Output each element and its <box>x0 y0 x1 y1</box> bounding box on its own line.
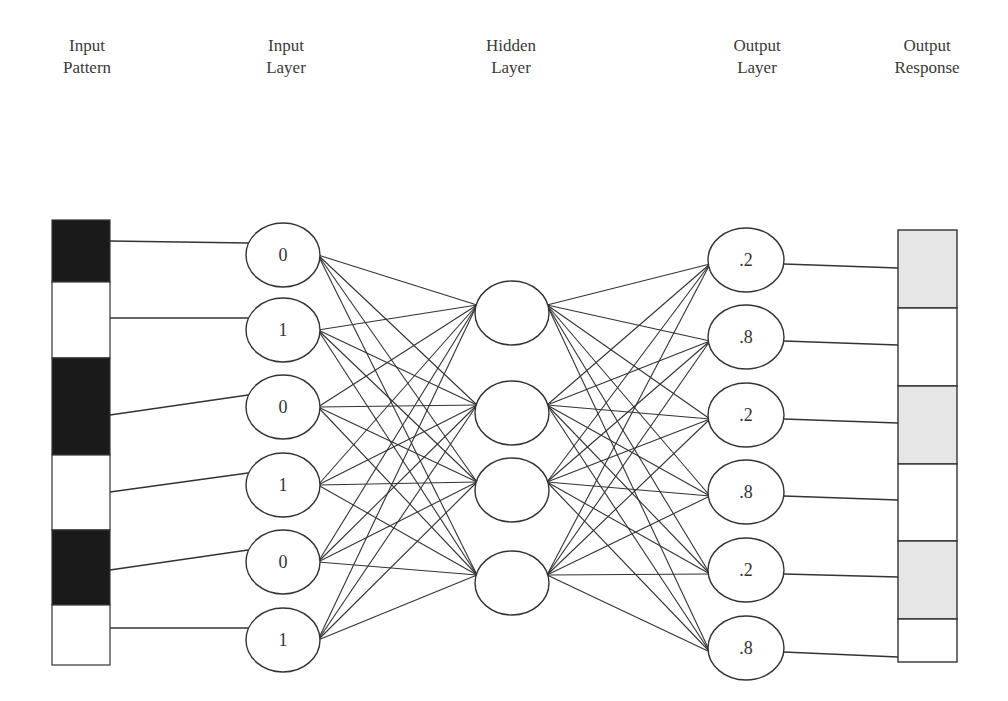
input-pattern-cell-dark <box>52 530 110 605</box>
neuron-value: 1 <box>279 630 288 650</box>
pattern-to-input-line <box>110 550 248 570</box>
hidden-output-connection <box>547 305 710 652</box>
input-layer-node: 1 <box>246 453 320 517</box>
input-hidden-connection <box>318 305 477 485</box>
neuron-value: 1 <box>279 475 288 495</box>
input-hidden-connection <box>318 255 477 482</box>
input-pattern-cell-dark <box>52 358 110 455</box>
neuron-circle <box>475 551 549 615</box>
nodes: 010101.2.8.2.8.2.8 <box>246 223 784 680</box>
network-diagram: 010101.2.8.2.8.2.8 <box>0 0 1008 701</box>
input-hidden-connection <box>318 255 477 305</box>
output-to-response-line <box>784 574 898 577</box>
hidden-output-connection <box>547 264 710 405</box>
hidden-layer-node <box>475 458 549 522</box>
hidden-layer-node <box>475 381 549 445</box>
output-to-response-line <box>784 341 898 345</box>
pattern-to-input-line <box>110 473 248 492</box>
neuron-value: 0 <box>279 552 288 572</box>
neuron-value: .2 <box>739 560 753 580</box>
input-hidden-connection <box>318 562 477 575</box>
neuron-value: 0 <box>279 245 288 265</box>
input-layer-node: 1 <box>246 298 320 362</box>
input-layer-node: 0 <box>246 530 320 594</box>
output-response-cell <box>898 541 957 619</box>
input-hidden-connection <box>318 255 477 575</box>
hidden-output-connection <box>547 341 710 575</box>
neuron-value: .2 <box>739 250 753 270</box>
output-response-cell <box>898 464 957 541</box>
neuron-circle <box>475 381 549 445</box>
hidden-output-connection <box>547 305 710 496</box>
input-layer-node: 0 <box>246 223 320 287</box>
hidden-layer-node <box>475 281 549 345</box>
output-to-response-line <box>784 652 898 657</box>
output-layer-node: .8 <box>708 460 784 524</box>
input-layer-node: 0 <box>246 375 320 439</box>
input-pattern-cell-dark <box>52 220 110 282</box>
output-response-cell <box>898 308 957 386</box>
neuron-value: .2 <box>739 405 753 425</box>
output-to-response-line <box>784 419 898 423</box>
hidden-output-connection <box>547 574 710 575</box>
input-hidden-connection <box>318 255 477 405</box>
input-pattern-cell-light <box>52 455 110 530</box>
hidden-output-connection <box>547 482 710 496</box>
neuron-value: 1 <box>279 320 288 340</box>
output-response-cell <box>898 619 957 662</box>
output-layer-node: .2 <box>708 383 784 447</box>
neuron-circle <box>475 281 549 345</box>
input-pattern-cell-light <box>52 605 110 665</box>
input-hidden-connection <box>318 575 477 640</box>
neuron-value: .8 <box>739 482 753 502</box>
pattern-to-input-line <box>110 241 248 243</box>
input-layer-node: 1 <box>246 608 320 672</box>
neuron-value: .8 <box>739 638 753 658</box>
hidden-layer-node <box>475 551 549 615</box>
output-response-bar <box>898 230 957 662</box>
hidden-output-connection <box>547 575 710 652</box>
output-response-cell <box>898 386 957 464</box>
output-layer-node: .2 <box>708 538 784 602</box>
pattern-to-input-line <box>110 395 248 415</box>
output-layer-node: .2 <box>708 228 784 292</box>
input-pattern-bar <box>52 220 110 665</box>
hidden-output-connection <box>547 264 710 482</box>
input-hidden-connection <box>318 305 477 330</box>
hidden-output-connection <box>547 305 710 574</box>
output-to-response-line <box>784 264 898 268</box>
hidden-output-connection <box>547 419 710 482</box>
input-pattern-cell-light <box>52 282 110 358</box>
output-to-response-line <box>784 496 898 500</box>
output-layer-node: .8 <box>708 305 784 369</box>
neuron-circle <box>475 458 549 522</box>
neuron-value: 0 <box>279 397 288 417</box>
output-response-cell <box>898 230 957 308</box>
neuron-value: .8 <box>739 327 753 347</box>
output-layer-node: .8 <box>708 616 784 680</box>
